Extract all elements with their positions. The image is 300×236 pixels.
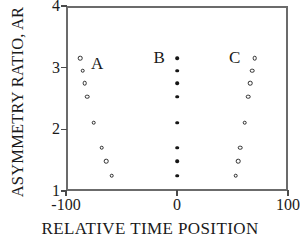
- x-axis-tick-label: -100: [51, 196, 80, 214]
- data-point-a: [78, 56, 83, 61]
- scatter-chart-figure: ASYMMETRY RATIO, AR RELATIVE TIME POSITI…: [0, 0, 300, 236]
- data-point-a: [80, 68, 85, 73]
- data-point-a: [109, 173, 114, 178]
- data-point-a: [83, 81, 88, 86]
- series-label-a: A: [91, 54, 103, 74]
- x-axis-title: RELATIVE TIME POSITION: [0, 219, 300, 236]
- x-axis-tick-label: 0: [173, 196, 181, 214]
- data-point-a: [85, 94, 90, 99]
- plot-area: 1234 -1000100 ABC: [66, 6, 288, 191]
- axis-frame-left: [66, 6, 68, 191]
- axis-frame-top: [66, 6, 288, 8]
- y-axis-tick: [61, 5, 67, 7]
- data-point-c: [238, 146, 243, 151]
- data-point-b: [175, 69, 179, 73]
- data-point-c: [250, 68, 255, 73]
- data-point-c: [242, 120, 247, 125]
- data-point-c: [248, 81, 253, 86]
- series-label-c: C: [229, 48, 240, 68]
- data-point-a: [91, 120, 96, 125]
- data-point-b: [175, 121, 179, 125]
- data-point-c: [234, 173, 239, 178]
- data-point-c: [246, 94, 251, 99]
- data-point-c: [236, 159, 241, 164]
- data-point-a: [99, 146, 104, 151]
- series-label-b: B: [154, 48, 165, 68]
- y-axis-tick-label: 2: [52, 120, 60, 138]
- data-point-b: [175, 81, 179, 85]
- data-point-a: [104, 159, 109, 164]
- y-axis-tick: [61, 67, 67, 69]
- data-point-b: [175, 57, 179, 61]
- y-axis-tick-label: 3: [52, 59, 60, 77]
- y-axis-title: ASYMMETRY RATIO, AR: [8, 2, 28, 202]
- data-point-b: [175, 160, 179, 164]
- y-axis-tick-label: 4: [52, 0, 60, 15]
- x-axis-tick-label: 100: [276, 196, 300, 214]
- y-axis-tick: [61, 129, 67, 131]
- data-point-b: [175, 174, 179, 178]
- data-point-b: [175, 146, 179, 150]
- data-point-c: [252, 56, 257, 61]
- data-point-b: [175, 95, 179, 99]
- axis-frame-right: [286, 6, 288, 191]
